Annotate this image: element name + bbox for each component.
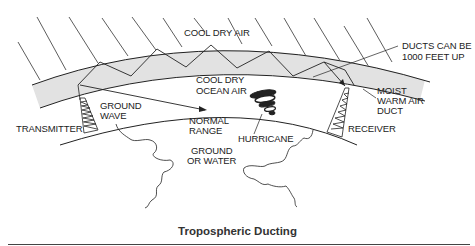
label-hurricane: HURRICANE [238, 134, 294, 144]
label-ground-or-water-line2: OR WATER [187, 156, 236, 166]
ground-wave-ray [80, 85, 205, 110]
bottom-rule [8, 244, 470, 245]
hurricane-leader [254, 114, 262, 134]
label-normal-range-line2: RANGE [189, 126, 222, 136]
transmitter-tower-icon [80, 98, 98, 133]
label-ground-wave-line2: WAVE [100, 111, 127, 121]
label-moist-line3: DUCT [377, 106, 403, 116]
label-cool-dry-ocean-air-line1: COOL DRY [196, 75, 244, 85]
label-ducts-can-be-line2: 1000 FEET UP [402, 52, 465, 62]
label-cool-dry-air: COOL DRY AIR [184, 28, 250, 38]
label-transmitter: TRANSMITTER [16, 124, 82, 134]
river-left [116, 124, 173, 208]
ground-wave-arrowhead-icon [199, 106, 207, 112]
hurricane-icon [250, 88, 277, 115]
label-receiver: RECEIVER [348, 124, 396, 134]
receiver-tower-icon [327, 88, 349, 137]
diagram-title: Tropospheric Ducting [0, 225, 475, 237]
moist-duct-leader [363, 89, 376, 98]
label-cool-dry-ocean-air-line2: OCEAN AIR [196, 86, 247, 96]
label-ducts-can-be-line1: DUCTS CAN BE [402, 41, 472, 51]
